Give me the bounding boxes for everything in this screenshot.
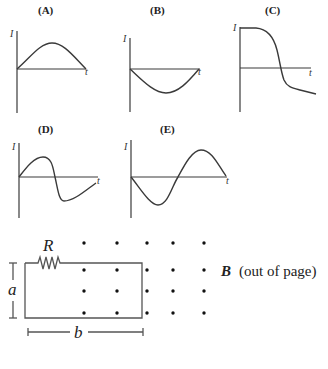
field-label: B (out of page) [220,262,316,280]
graph-c-curve [240,28,316,94]
resistor-label: R [42,236,54,255]
graph-c-label: (C) [265,4,281,17]
field-dot [202,311,205,314]
field-dot [171,289,174,292]
physics-figure: (A) I t (B) I t (C) I t (D) I t (E) I t [0,0,328,369]
graph-c: (C) I t [232,4,316,112]
dimension-b-label: b [74,323,83,342]
field-dot [202,268,205,271]
graph-b: (B) I t [122,4,201,112]
graph-d-y-label: I [11,141,16,152]
graph-d-label: (D) [38,123,54,136]
graph-e-y-label: I [123,141,128,152]
field-dot [115,311,118,314]
dimension-a-label: a [8,280,17,299]
field-dot [171,268,174,271]
field-symbol: B [220,263,231,279]
field-dot [82,268,85,271]
field-dot [145,311,148,314]
field-dot [82,311,85,314]
graph-b-y-label: I [122,33,127,44]
graph-e: (E) I t [123,123,229,218]
field-dot [202,289,205,292]
field-dot [202,241,205,244]
magnetic-field-dots [82,241,205,314]
field-dot [82,289,85,292]
graph-a: (A) I t [9,4,88,113]
circuit-diagram: R a b B (out of page) [8,236,316,342]
graph-b-x-label: t [198,66,201,77]
graph-d: (D) I t [11,123,100,218]
field-dot [115,289,118,292]
graph-c-x-label: t [309,67,312,78]
field-dot [171,311,174,314]
field-description: (out of page) [239,263,316,280]
field-dot [115,241,118,244]
field-dot [115,268,118,271]
graph-b-label: (B) [150,4,165,17]
dimension-b: b [28,323,143,342]
graph-b-curve [130,69,199,93]
graph-d-curve [19,157,96,201]
dimension-a: a [8,263,17,318]
graph-a-curve [17,43,86,69]
field-dot [145,241,148,244]
circuit-loop-with-resistor [25,257,142,318]
graph-a-y-label: I [9,28,14,39]
field-dot [171,241,174,244]
graph-e-label: (E) [160,123,175,136]
field-dot [145,268,148,271]
graph-c-y-label: I [232,22,237,33]
field-dot [145,289,148,292]
graph-a-label: (A) [38,4,54,17]
field-dot [82,241,85,244]
